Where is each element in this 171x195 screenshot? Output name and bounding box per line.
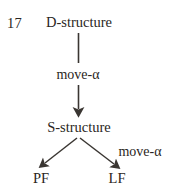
edge-sstructure-to-lf <box>80 138 114 164</box>
node-s-structure: S-structure <box>47 120 111 135</box>
edge-label-move-alpha-lf: move-α <box>118 145 161 159</box>
edge-sstructure-to-pf <box>45 138 77 163</box>
node-d-structure: D-structure <box>46 15 112 30</box>
derivation-diagram: 17 D-structure move-α S-structure move-α… <box>0 0 171 195</box>
node-pf: PF <box>33 171 49 186</box>
item-number-label: 17 <box>7 16 22 31</box>
node-lf: LF <box>109 171 126 186</box>
edge-label-move-alpha-top: move-α <box>56 68 99 82</box>
